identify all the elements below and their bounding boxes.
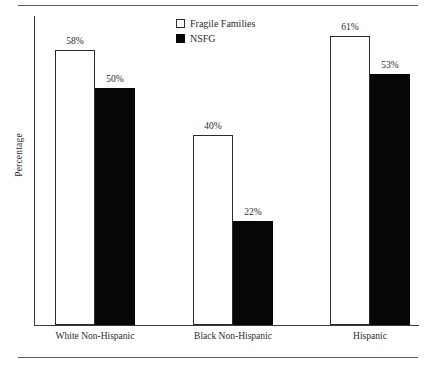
bar-nsfg-black-non-hispanic: [233, 221, 273, 325]
legend-swatch-outline-icon: [176, 19, 185, 28]
bar-value-nsfg-hispanic: 53%: [370, 60, 410, 70]
bar-fragile-families-black-non-hispanic: [193, 135, 233, 325]
bar-value-fragile-families-white-non-hispanic: 58%: [55, 36, 95, 46]
legend-swatch-filled-icon: [176, 34, 185, 43]
legend: Fragile Families NSFG: [176, 16, 255, 46]
x-axis-label-hispanic: Hispanic: [300, 331, 436, 341]
legend-label-fragile-families: Fragile Families: [190, 18, 255, 29]
bar-value-nsfg-white-non-hispanic: 50%: [95, 74, 135, 84]
bar-fragile-families-white-non-hispanic: [55, 50, 95, 325]
y-axis-line: [34, 16, 35, 325]
plot-area: Percentage 58% 50% White Non-Hispanic 40…: [0, 0, 436, 369]
x-axis-line: [34, 325, 419, 326]
figure: Percentage 58% 50% White Non-Hispanic 40…: [0, 0, 436, 369]
y-axis-title: Percentage: [14, 110, 24, 200]
legend-label-nsfg: NSFG: [190, 33, 216, 44]
bar-value-nsfg-black-non-hispanic: 22%: [233, 207, 273, 217]
x-axis-label-black-non-hispanic: Black Non-Hispanic: [163, 331, 303, 341]
legend-item-nsfg: NSFG: [176, 31, 255, 46]
legend-item-fragile-families: Fragile Families: [176, 16, 255, 31]
bar-value-fragile-families-black-non-hispanic: 40%: [193, 121, 233, 131]
x-axis-label-white-non-hispanic: White Non-Hispanic: [25, 331, 165, 341]
bar-value-fragile-families-hispanic: 61%: [330, 22, 370, 32]
bar-nsfg-hispanic: [370, 74, 410, 325]
bar-fragile-families-hispanic: [330, 36, 370, 325]
bar-nsfg-white-non-hispanic: [95, 88, 135, 325]
